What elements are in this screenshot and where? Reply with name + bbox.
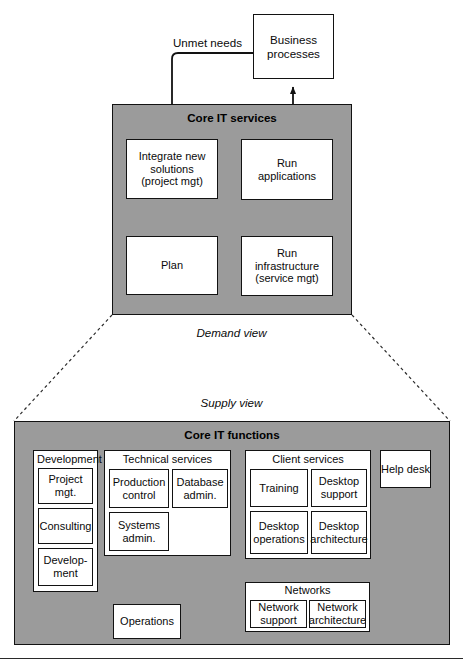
group-client-services-title: Client services <box>245 453 371 465</box>
network-support-line1: Network <box>258 601 298 614</box>
run-infrastructure-box[interactable]: Run infrastructure (service mgt) <box>241 236 333 296</box>
database-admin-line1: Database <box>176 476 223 489</box>
desktop-operations-line1: Desktop <box>259 520 299 533</box>
group-networks-title: Networks <box>245 584 370 596</box>
project-mgt-line2: mgt. <box>55 486 76 499</box>
supply-view-label: Supply view <box>0 396 463 409</box>
business-processes-label-line2: processes <box>267 47 320 61</box>
integrate-line2: solutions <box>150 163 193 176</box>
demand-view-label: Demand view <box>0 326 463 339</box>
project-mgt-box[interactable]: Project mgt. <box>38 468 93 504</box>
integrate-line1: Integrate new <box>139 150 206 163</box>
network-architecture-line2: architecture <box>309 614 366 627</box>
desktop-architecture-box[interactable]: Desktop architecture <box>311 511 367 554</box>
desktop-support-line2: support <box>321 488 358 501</box>
network-architecture-box[interactable]: Network architecture <box>309 600 366 628</box>
systems-admin-line2: admin. <box>122 532 155 545</box>
training-box[interactable]: Training <box>250 469 308 507</box>
desktop-architecture-line2: architecture <box>310 533 367 546</box>
desktop-operations-box[interactable]: Desktop operations <box>250 511 308 554</box>
production-control-box[interactable]: Production control <box>109 469 169 508</box>
core-it-functions-title: Core IT functions <box>14 428 450 441</box>
network-architecture-line1: Network <box>317 601 357 614</box>
database-admin-box[interactable]: Database admin. <box>172 469 228 508</box>
consulting-box[interactable]: Consulting <box>38 508 93 544</box>
systems-admin-line1: Systems <box>118 519 160 532</box>
run-applications-box[interactable]: Run applications <box>241 139 333 200</box>
development-line1: Develop- <box>43 554 87 567</box>
run-infrastructure-line1: Run <box>277 247 297 260</box>
plan-line1: Plan <box>161 259 183 272</box>
diagram-canvas: Business processes Unmet needs Core IT s… <box>0 0 463 672</box>
help-desk-label: Help desk <box>381 463 430 476</box>
desktop-architecture-line1: Desktop <box>319 520 359 533</box>
integrate-new-solutions-box[interactable]: Integrate new solutions (project mgt) <box>126 139 218 199</box>
help-desk-box[interactable]: Help desk <box>380 450 431 488</box>
development-box[interactable]: Develop- ment <box>38 548 93 586</box>
production-control-line1: Production <box>113 476 166 489</box>
production-control-line2: control <box>122 489 155 502</box>
network-support-line2: support <box>260 614 297 627</box>
integrate-line3: (project mgt) <box>141 175 203 188</box>
operations-label: Operations <box>120 615 174 628</box>
plan-box[interactable]: Plan <box>126 236 218 295</box>
network-support-box[interactable]: Network support <box>250 600 307 628</box>
business-processes-box[interactable]: Business processes <box>253 14 334 79</box>
systems-admin-box[interactable]: Systems admin. <box>109 512 169 551</box>
run-infrastructure-line2: infrastructure <box>255 260 319 273</box>
core-it-services-title: Core IT services <box>112 111 352 124</box>
page-footer-rule <box>0 658 463 659</box>
database-admin-line2: admin. <box>183 489 216 502</box>
run-infrastructure-line3: (service mgt) <box>255 272 319 285</box>
development-line2: ment <box>53 567 77 580</box>
group-development-title: Development <box>33 453 102 465</box>
business-processes-label-line1: Business <box>270 33 317 47</box>
desktop-support-box[interactable]: Desktop support <box>311 469 367 507</box>
unmet-needs-label: Unmet needs <box>173 36 242 49</box>
operations-box[interactable]: Operations <box>113 604 181 639</box>
consulting-line1: Consulting <box>40 520 92 533</box>
group-technical-services-title: Technical services <box>104 453 231 465</box>
run-applications-line1: Run <box>277 157 297 170</box>
desktop-support-line1: Desktop <box>319 475 359 488</box>
training-line1: Training <box>259 482 298 495</box>
project-mgt-line1: Project <box>48 473 82 486</box>
run-applications-line2: applications <box>258 170 316 183</box>
desktop-operations-line2: operations <box>253 533 304 546</box>
